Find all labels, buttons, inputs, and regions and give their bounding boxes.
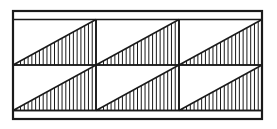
figure-root bbox=[0, 0, 277, 129]
hatched-triangle-grid-diagram bbox=[0, 0, 277, 129]
